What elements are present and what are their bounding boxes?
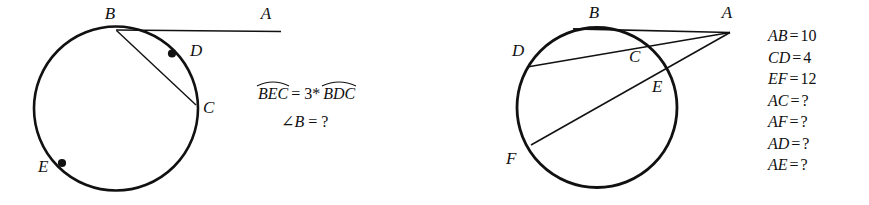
arc-relation-equation: BEC = 3* BDC xyxy=(258,84,355,102)
left-label-E: E xyxy=(37,157,49,176)
measurement-value-EF: 12 xyxy=(801,70,817,87)
measurement-value-AF: ? xyxy=(801,113,808,130)
left-label-A: A xyxy=(260,4,272,23)
right-label-B: B xyxy=(589,3,600,22)
measurement-eq-AE: = xyxy=(788,156,801,173)
measurement-eq-AD: = xyxy=(789,135,802,152)
measurement-row-AC: AC=? xyxy=(768,91,817,111)
arc-relation-operator: = 3* xyxy=(288,85,323,102)
measurement-name-AF: AF xyxy=(768,113,788,130)
left-label-D: D xyxy=(189,41,203,60)
arc-overbar-BDC-icon xyxy=(321,79,357,87)
measurement-row-AD: AD=? xyxy=(768,134,817,154)
angle-B-equals: = ? xyxy=(304,113,328,130)
point-marker-E-left xyxy=(58,159,66,167)
measurement-name-AB: AB xyxy=(768,27,788,44)
measurement-row-CD: CD=4 xyxy=(768,48,817,68)
measurement-eq-AF: = xyxy=(788,113,801,130)
measurement-eq-AC: = xyxy=(788,92,801,109)
measurement-value-AB: 10 xyxy=(801,27,817,44)
measurement-eq-CD: = xyxy=(790,49,803,66)
measurement-row-AB: AB=10 xyxy=(768,26,817,46)
measurement-value-CD: 4 xyxy=(803,49,811,66)
arc-BDC-group: BDC xyxy=(323,84,355,102)
measurement-eq-AB: = xyxy=(788,27,801,44)
geometry-figure-root: B A D C E B A D C E F BEC = 3* BDC xyxy=(0,0,869,205)
point-marker-D-left xyxy=(168,49,176,57)
measurement-name-AD: AD xyxy=(768,135,789,152)
measurement-row-EF: EF=12 xyxy=(768,69,817,89)
left-label-C: C xyxy=(203,98,215,117)
measurement-list: AB=10 CD=4 EF=12 AC=? AF=? AD=? AE=? xyxy=(768,26,817,175)
arc-BEC-label: BEC xyxy=(258,85,288,102)
measurement-name-CD: CD xyxy=(768,49,790,66)
measurement-row-AF: AF=? xyxy=(768,112,817,132)
measurement-name-AC: AC xyxy=(768,92,788,109)
measurement-row-AE: AE=? xyxy=(768,155,817,175)
right-label-C: C xyxy=(629,47,641,66)
right-label-D: D xyxy=(511,41,525,60)
right-label-F: F xyxy=(505,149,517,168)
measurement-value-AD: ? xyxy=(802,135,809,152)
angle-question-equation: ∠B= ? xyxy=(281,114,328,130)
measurement-name-AE: AE xyxy=(768,156,788,173)
measurement-value-AE: ? xyxy=(801,156,808,173)
measurement-eq-EF: = xyxy=(788,70,801,87)
secant-line-AB xyxy=(573,29,730,33)
left-label-B: B xyxy=(105,4,116,23)
angle-B-label: ∠B xyxy=(281,113,304,130)
right-label-A: A xyxy=(721,3,733,22)
arc-BDC-label: BDC xyxy=(323,85,355,102)
left-figure-canvas: B A D C E B A D C E F xyxy=(0,0,869,205)
measurement-value-AC: ? xyxy=(801,92,808,109)
measurement-name-EF: EF xyxy=(768,70,788,87)
chord-BC xyxy=(117,31,197,106)
right-label-E: E xyxy=(651,77,663,96)
arc-overbar-BEC-icon xyxy=(256,79,290,87)
arc-BEC-group: BEC xyxy=(258,84,288,102)
